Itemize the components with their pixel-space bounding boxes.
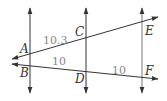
point-label-c: C <box>75 25 84 39</box>
transversal-bdf <box>12 64 158 79</box>
geometry-diagram: A B C D E F 10.3 10 10 <box>0 0 167 101</box>
measure-df: 10 <box>112 64 126 77</box>
point-label-f: F <box>144 64 154 78</box>
point-label-b: B <box>19 66 29 80</box>
point-label-e: E <box>144 24 154 38</box>
point-label-a: A <box>19 42 29 56</box>
point-label-d: D <box>74 72 85 86</box>
transversal-ace <box>12 17 158 59</box>
measure-ac: 10.3 <box>43 34 68 47</box>
measure-bd: 10 <box>52 55 66 68</box>
